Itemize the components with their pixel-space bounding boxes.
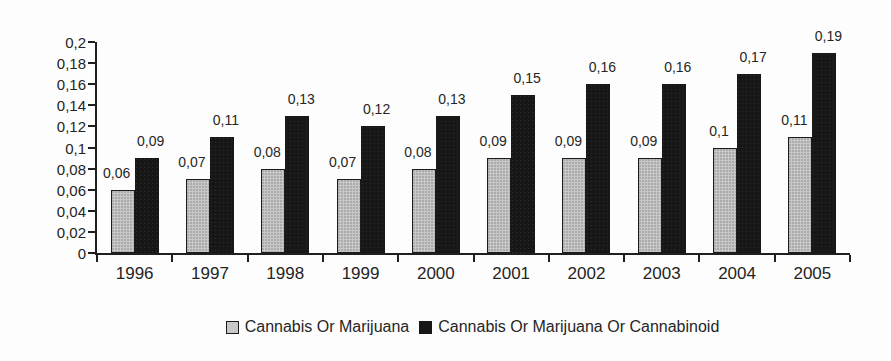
x-category-label-2000: 2000 <box>401 264 471 284</box>
y-tick-mark <box>88 252 95 254</box>
legend-item-cannabis-or-marijuana: Cannabis Or Marijuana <box>226 318 410 336</box>
bar-series1-2002 <box>586 84 610 253</box>
x-category-label-2002: 2002 <box>551 264 621 284</box>
x-category-label-2005: 2005 <box>777 264 847 284</box>
x-category-label-1997: 1997 <box>175 264 245 284</box>
bar-series1-2000 <box>436 116 460 253</box>
x-category-label-2003: 2003 <box>627 264 697 284</box>
bar-series0-2001 <box>487 158 511 253</box>
bar-series1-1997 <box>210 137 234 253</box>
legend-label: Cannabis Or Marijuana <box>245 318 410 336</box>
bar-series1-1996 <box>135 158 159 253</box>
bar-chart: 00,020,040,060,080,10,120,140,160,180,2 … <box>0 0 891 361</box>
x-tick-mark <box>548 255 550 262</box>
y-tick-mark <box>88 147 95 149</box>
x-tick-mark <box>623 255 625 262</box>
y-tick-label: 0,02 <box>20 223 86 240</box>
y-tick-label: 0,04 <box>20 202 86 219</box>
y-tick-label: 0,06 <box>20 181 86 198</box>
bar-series1-1998 <box>285 116 309 253</box>
y-tick-mark <box>88 62 95 64</box>
y-tick-mark <box>88 83 95 85</box>
value-label-series1-2003: 0,16 <box>653 59 703 75</box>
x-tick-mark <box>397 255 399 262</box>
legend-item-cannabis-or-marijuana-or-cannabinoid: Cannabis Or Marijuana Or Cannabinoid <box>419 318 719 336</box>
bar-series0-2002 <box>562 158 586 253</box>
x-tick-mark <box>774 255 776 262</box>
value-label-series1-2001: 0,15 <box>502 70 552 86</box>
value-label-series1-2000: 0,13 <box>427 91 477 107</box>
x-tick-mark <box>473 255 475 262</box>
bar-series0-2004 <box>713 148 737 254</box>
plot-area: 0,060,090,070,110,080,130,070,120,080,13… <box>95 42 850 255</box>
bar-series1-2001 <box>511 95 535 253</box>
x-tick-mark <box>247 255 249 262</box>
value-label-series1-1997: 0,11 <box>201 112 251 128</box>
legend-label: Cannabis Or Marijuana Or Cannabinoid <box>438 318 719 336</box>
x-tick-mark <box>849 255 851 262</box>
y-tick-label: 0,18 <box>20 55 86 72</box>
value-label-series1-2004: 0,17 <box>728 49 778 65</box>
bar-series0-2000 <box>412 169 436 253</box>
y-tick-label: 0 <box>20 245 86 262</box>
y-tick-mark <box>88 125 95 127</box>
bar-series1-2004 <box>737 74 761 253</box>
y-tick-label: 0,12 <box>20 118 86 135</box>
y-tick-mark <box>88 210 95 212</box>
y-tick-mark <box>88 104 95 106</box>
x-tick-mark <box>171 255 173 262</box>
legend-swatch-black <box>419 321 432 334</box>
x-tick-mark <box>322 255 324 262</box>
bar-series0-1998 <box>261 169 285 253</box>
value-label-series1-1998: 0,13 <box>276 91 326 107</box>
x-tick-mark <box>96 255 98 262</box>
bar-series0-1996 <box>111 190 135 253</box>
y-tick-label: 0,1 <box>20 139 86 156</box>
y-tick-label: 0,14 <box>20 97 86 114</box>
bar-series1-2003 <box>662 84 686 253</box>
value-label-series1-1996: 0,09 <box>126 133 176 149</box>
bar-series1-2005 <box>812 53 836 253</box>
x-category-label-2001: 2001 <box>476 264 546 284</box>
y-tick-mark <box>88 231 95 233</box>
y-tick-label: 0,2 <box>20 34 86 51</box>
x-tick-mark <box>698 255 700 262</box>
legend-swatch-gray <box>226 321 239 334</box>
value-label-series1-2005: 0,19 <box>803 28 853 44</box>
bar-series0-2003 <box>638 158 662 253</box>
value-label-series1-2002: 0,16 <box>577 59 627 75</box>
x-category-label-1998: 1998 <box>250 264 320 284</box>
y-tick-label: 0,16 <box>20 76 86 93</box>
legend: Cannabis Or Marijuana Cannabis Or Mariju… <box>95 318 850 336</box>
value-label-series1-1999: 0,12 <box>352 101 402 117</box>
y-tick-label: 0,08 <box>20 160 86 177</box>
bar-series1-1999 <box>361 126 385 253</box>
y-tick-mark <box>88 189 95 191</box>
y-tick-mark <box>88 41 95 43</box>
x-category-label-2004: 2004 <box>702 264 772 284</box>
bar-series0-1999 <box>337 179 361 253</box>
bar-series0-2005 <box>788 137 812 253</box>
bar-series0-1997 <box>186 179 210 253</box>
x-category-label-1996: 1996 <box>100 264 170 284</box>
x-category-label-1999: 1999 <box>326 264 396 284</box>
